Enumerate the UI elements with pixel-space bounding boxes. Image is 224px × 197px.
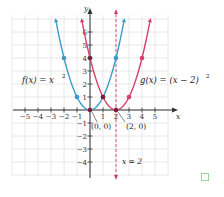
x-tick-label: −2 [59, 113, 69, 121]
x-tick-label: 4 [140, 113, 145, 121]
x-tick-label: 1 [101, 113, 105, 121]
checkbox[interactable] [201, 173, 209, 181]
annotation-leader [118, 112, 125, 122]
x-axis-label: x [176, 112, 181, 121]
g-label: g(x) = (x − 2) [140, 75, 199, 85]
x-tick-label: −5 [20, 113, 30, 121]
data-point [88, 108, 93, 113]
graph-of-parabolas: −5−4−3−2−112345−4−3−2−1123456xy f(x) = x… [0, 0, 224, 197]
dashed-line-label: x = 2 [122, 157, 142, 166]
y-tick-label: −4 [77, 159, 88, 167]
data-point [127, 95, 132, 100]
origin-annotation: (0, 0) [91, 122, 111, 131]
y-tick-label: −2 [77, 133, 87, 141]
y-tick-label: 1 [83, 94, 87, 102]
y-axis-label: y [83, 4, 89, 13]
dashed-line-arrow-down-icon [114, 175, 118, 180]
g-label-superscript: 2 [206, 73, 210, 79]
data-point [88, 56, 93, 61]
f-label: f(x) = x [21, 75, 54, 85]
y-tick-label: −1 [77, 120, 87, 128]
data-point [62, 56, 67, 61]
x-tick-label: 5 [153, 113, 157, 121]
data-point [101, 95, 106, 100]
x-tick-label: −4 [33, 113, 44, 121]
y-tick-label: 2 [83, 81, 87, 89]
vertex-annotation: (2, 0) [126, 122, 146, 131]
data-point [75, 95, 80, 100]
x-tick-label: −3 [46, 113, 56, 121]
y-axis-arrow-icon [88, 8, 93, 14]
data-point [140, 56, 145, 61]
y-tick-label: −3 [77, 146, 87, 154]
data-point [114, 56, 119, 61]
x-tick-label: 3 [127, 113, 131, 121]
y-tick-label: 4 [83, 55, 88, 63]
dashed-line-arrow-up-icon [114, 9, 118, 14]
y-tick-label: 3 [83, 68, 87, 76]
annotation-leader [92, 112, 97, 122]
f-label-superscript: 2 [62, 73, 66, 79]
data-point [114, 108, 119, 113]
tick-labels: −5−4−3−2−112345−4−3−2−1123456xy [20, 4, 181, 167]
